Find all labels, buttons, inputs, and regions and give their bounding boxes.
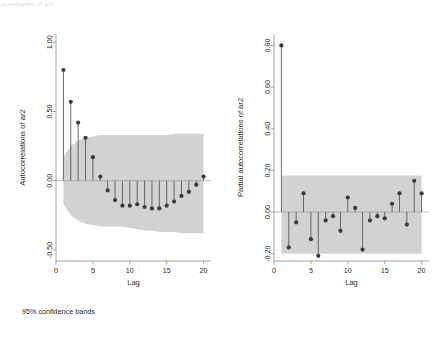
pacf-data-point[interactable] <box>301 191 305 195</box>
acf-y-tick-label: -0.50 <box>45 242 54 258</box>
pacf-data-point[interactable] <box>412 179 416 183</box>
pacf-x-tick-label: 5 <box>309 266 313 275</box>
pacf-y-tick-label: 0.40 <box>263 122 272 136</box>
acf-x-tick-label: 15 <box>163 266 171 275</box>
top-strip-text: correlogram of ar2 <box>0 0 447 9</box>
acf-data-point[interactable] <box>135 202 139 206</box>
pacf-data-point[interactable] <box>279 43 283 47</box>
pacf-y-tick-label: 0.80 <box>263 38 272 52</box>
acf-chart-panel: 1.000.500.00-0.5005101520LagAutocorrelat… <box>14 22 219 295</box>
pacf-data-point[interactable] <box>420 191 424 195</box>
pacf-plot-group: 0.800.600.400.200.00-0.2005101520LagPart… <box>236 34 429 287</box>
acf-x-tick-label: 20 <box>200 266 208 275</box>
pacf-y-tick-label: -0.20 <box>263 246 272 262</box>
pacf-y-tick-label: 0.20 <box>263 163 272 177</box>
pacf-data-point[interactable] <box>331 214 335 218</box>
pacf-data-point[interactable] <box>360 247 364 251</box>
pacf-data-point[interactable] <box>309 237 313 241</box>
pacf-x-tick-label: 0 <box>272 266 276 275</box>
acf-data-point[interactable] <box>83 136 87 140</box>
pacf-chart-svg: 0.800.600.400.200.00-0.2005101520LagPart… <box>232 22 437 295</box>
pacf-data-point[interactable] <box>397 191 401 195</box>
pacf-data-point[interactable] <box>316 254 320 258</box>
acf-data-point[interactable] <box>179 194 183 198</box>
acf-data-point[interactable] <box>128 204 132 208</box>
acf-x-axis-title: Lag <box>127 278 140 287</box>
pacf-x-axis-title: Lag <box>345 278 358 287</box>
pacf-data-point[interactable] <box>405 222 409 226</box>
acf-data-point[interactable] <box>172 199 176 203</box>
pacf-data-point[interactable] <box>383 216 387 220</box>
acf-data-point[interactable] <box>61 68 65 72</box>
acf-y-tick-label: 1.00 <box>45 35 54 49</box>
acf-data-point[interactable] <box>76 120 80 124</box>
pacf-data-point[interactable] <box>368 218 372 222</box>
pacf-data-point[interactable] <box>324 218 328 222</box>
acf-y-tick-label: 0.00 <box>45 174 54 188</box>
acf-data-point[interactable] <box>120 204 124 208</box>
pacf-y-axis-title: Partial autocorrelations of ar2 <box>236 98 245 197</box>
acf-data-point[interactable] <box>150 206 154 210</box>
pacf-y-tick-label: 0.00 <box>263 205 272 219</box>
pacf-data-point[interactable] <box>375 214 379 218</box>
acf-data-point[interactable] <box>202 174 206 178</box>
pacf-chart-panel: 0.800.600.400.200.00-0.2005101520LagPart… <box>232 22 437 295</box>
pacf-y-tick-label: 0.60 <box>263 80 272 94</box>
correlogram-page: correlogram of ar2 1.000.500.00-0.500510… <box>0 0 447 348</box>
pacf-data-point[interactable] <box>346 195 350 199</box>
acf-x-tick-label: 10 <box>126 266 134 275</box>
acf-data-point[interactable] <box>91 155 95 159</box>
pacf-x-tick-label: 20 <box>418 266 426 275</box>
acf-data-point[interactable] <box>113 198 117 202</box>
confidence-bands-footnote: 95% confidence bands <box>22 307 95 316</box>
acf-data-point[interactable] <box>194 183 198 187</box>
acf-x-tick-label: 5 <box>91 266 95 275</box>
pacf-confidence-band <box>281 176 421 254</box>
acf-confidence-band <box>63 134 203 234</box>
acf-x-tick-label: 0 <box>54 266 58 275</box>
pacf-data-point[interactable] <box>287 245 291 249</box>
pacf-data-point[interactable] <box>353 206 357 210</box>
acf-y-axis-title: Autocorrelations of ar2 <box>18 109 27 185</box>
pacf-x-tick-label: 10 <box>344 266 352 275</box>
pacf-x-tick-label: 15 <box>381 266 389 275</box>
acf-chart-svg: 1.000.500.00-0.5005101520LagAutocorrelat… <box>14 22 219 295</box>
acf-data-point[interactable] <box>98 174 102 178</box>
acf-data-point[interactable] <box>157 206 161 210</box>
acf-data-point[interactable] <box>187 190 191 194</box>
pacf-data-point[interactable] <box>294 220 298 224</box>
acf-data-point[interactable] <box>165 204 169 208</box>
acf-data-point[interactable] <box>106 188 110 192</box>
pacf-data-point[interactable] <box>338 229 342 233</box>
acf-data-point[interactable] <box>69 100 73 104</box>
acf-plot-group: 1.000.500.00-0.5005101520LagAutocorrelat… <box>18 34 211 287</box>
pacf-data-point[interactable] <box>390 202 394 206</box>
acf-data-point[interactable] <box>142 205 146 209</box>
acf-y-tick-label: 0.50 <box>45 105 54 119</box>
